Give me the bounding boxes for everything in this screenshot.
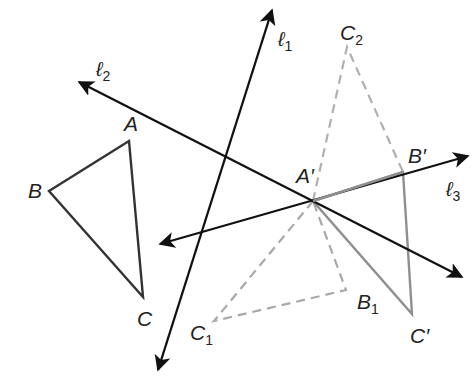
label-l3: ℓ3: [445, 178, 460, 204]
label-c: C: [137, 307, 153, 330]
label-b-prime: B′: [408, 144, 427, 167]
label-l1: ℓ1: [277, 28, 292, 54]
triangle-a-prime-b1-c1-dashed: [214, 201, 346, 321]
label-b: B: [28, 179, 42, 202]
line-l1: [158, 10, 272, 370]
diagram-canvas: ℓ1 ℓ2 ℓ3 A B C A′ B′ C′ C2 B1 C1: [0, 0, 474, 382]
segment-a-prime-b-prime: [313, 172, 403, 201]
label-c2: C2: [340, 21, 363, 48]
label-c-prime: C′: [410, 324, 430, 347]
label-a-prime: A′: [294, 164, 315, 187]
triangle-abc: [49, 141, 143, 297]
label-c1: C1: [190, 321, 213, 348]
label-b1: B1: [357, 290, 379, 317]
label-l2: ℓ2: [95, 58, 110, 84]
label-a: A: [122, 112, 138, 135]
